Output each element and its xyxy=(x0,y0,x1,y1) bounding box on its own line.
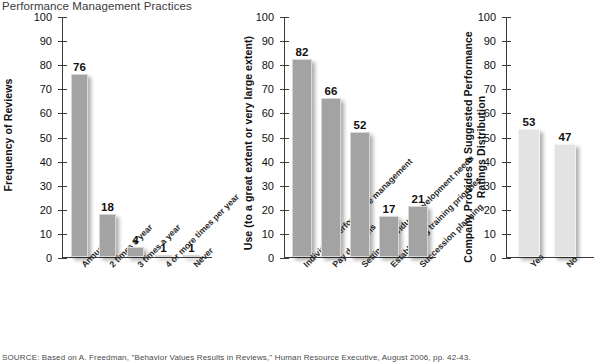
y-axis-tick-label: 50 xyxy=(484,132,496,144)
y-axis-tick: 90 xyxy=(502,41,511,42)
y-axis-tick-label: 40 xyxy=(40,156,52,168)
y-axis-tick: 70 xyxy=(58,89,67,90)
bar: 17 xyxy=(379,216,399,257)
y-axis-title: Frequency of Reviews xyxy=(2,10,18,260)
y-axis-tick: 10 xyxy=(58,234,67,235)
y-axis-tick-label: 100 xyxy=(478,11,496,23)
bar-value-label: 53 xyxy=(523,116,536,128)
y-axis-tick-label: 20 xyxy=(484,204,496,216)
y-axis-tick: 10 xyxy=(280,234,289,235)
y-axis-tick: 50 xyxy=(58,138,67,139)
y-axis-tick: 40 xyxy=(502,162,511,163)
y-axis-tick-label: 10 xyxy=(40,228,52,240)
y-axis-tick-label: 60 xyxy=(40,107,52,119)
bar-value-label: 18 xyxy=(101,201,114,213)
y-axis-tick-label: 60 xyxy=(262,107,274,119)
bar-value-label: 4 xyxy=(132,234,138,246)
y-axis-tick: 30 xyxy=(58,186,67,187)
y-axis-tick: 60 xyxy=(280,113,289,114)
bar-value-label: 82 xyxy=(296,46,309,58)
y-axis-tick: 90 xyxy=(280,41,289,42)
chart-panel-use-extent: Use (to a great extent or very large ext… xyxy=(222,10,444,350)
y-axis-tick: 60 xyxy=(502,113,511,114)
y-axis-tick: 50 xyxy=(502,138,511,139)
y-axis-tick: 100 xyxy=(502,17,511,18)
y-axis-tick-label: 40 xyxy=(262,156,274,168)
y-axis-tick-label: 50 xyxy=(40,132,52,144)
plot-area: 010203040506070809010082Individual perfo… xyxy=(284,17,436,258)
y-axis-tick-label: 70 xyxy=(262,83,274,95)
y-axis-tick-label: 70 xyxy=(40,83,52,95)
y-axis-tick: 80 xyxy=(58,65,67,66)
y-axis-tick: 20 xyxy=(502,210,511,211)
y-axis-tick: 50 xyxy=(280,138,289,139)
y-axis-tick: 100 xyxy=(280,17,289,18)
y-axis-tick-label: 70 xyxy=(484,83,496,95)
bar: 53 xyxy=(518,129,540,257)
y-axis-tick: 0 xyxy=(280,258,289,259)
y-axis-tick-label: 80 xyxy=(40,59,52,71)
y-axis-tick: 0 xyxy=(502,258,511,259)
y-axis-tick-label: 60 xyxy=(484,107,496,119)
plot-area: 010203040506070809010076Annual182 times … xyxy=(62,17,212,258)
source-note: SOURCE: Based on A. Freedman, "Behavior … xyxy=(2,353,471,362)
y-axis-tick-label: 100 xyxy=(34,11,52,23)
y-axis-tick: 40 xyxy=(58,162,67,163)
y-axis-tick-label: 10 xyxy=(262,228,274,240)
y-axis-tick: 30 xyxy=(280,186,289,187)
y-axis-tick-label: 0 xyxy=(268,252,274,264)
plot-area: 010203040506070809010053Yes47No xyxy=(506,17,594,258)
chart-panel-frequency-of-reviews: Frequency of Reviews01020304050607080901… xyxy=(0,10,222,350)
y-axis-tick-label: 90 xyxy=(40,35,52,47)
y-axis-tick: 10 xyxy=(502,234,511,235)
y-axis-tick-label: 90 xyxy=(262,35,274,47)
y-axis-tick: 40 xyxy=(280,162,289,163)
bar-value-label: 76 xyxy=(73,61,86,73)
bar-value-label: 66 xyxy=(325,85,338,97)
bar-value-label: 1 xyxy=(160,242,166,254)
y-axis-tick-label: 50 xyxy=(262,132,274,144)
y-axis-tick-label: 20 xyxy=(40,204,52,216)
y-axis-tick-label: 0 xyxy=(46,252,52,264)
bar: 66 xyxy=(321,98,341,257)
bar: 18 xyxy=(99,214,116,257)
chart-panel-ratings-distribution: Company Provides a Suggested Performance… xyxy=(444,10,603,350)
y-axis-tick-label: 80 xyxy=(262,59,274,71)
y-axis-tick: 70 xyxy=(502,89,511,90)
y-axis-tick-label: 20 xyxy=(262,204,274,216)
y-axis-tick-label: 100 xyxy=(256,11,274,23)
bar: 52 xyxy=(350,132,370,257)
y-axis-tick: 100 xyxy=(58,17,67,18)
y-axis-tick-label: 30 xyxy=(262,180,274,192)
bar-value-label: 17 xyxy=(383,203,396,215)
y-axis-tick: 0 xyxy=(58,258,67,259)
bar-value-label: 47 xyxy=(559,131,572,143)
bar-value-label: 21 xyxy=(412,193,425,205)
bar-value-label: 1 xyxy=(188,242,194,254)
y-axis-tick-label: 10 xyxy=(484,228,496,240)
y-axis-tick: 70 xyxy=(280,89,289,90)
y-axis-tick: 60 xyxy=(58,113,67,114)
y-axis-tick-label: 40 xyxy=(484,156,496,168)
y-axis-tick: 30 xyxy=(502,186,511,187)
bar-value-label: 52 xyxy=(354,119,367,131)
y-axis-tick: 80 xyxy=(502,65,511,66)
y-axis-tick: 80 xyxy=(280,65,289,66)
bar: 82 xyxy=(292,59,312,257)
bar: 76 xyxy=(71,74,88,257)
y-axis-tick-label: 80 xyxy=(484,59,496,71)
y-axis-tick-label: 30 xyxy=(484,180,496,192)
bar: 21 xyxy=(408,206,428,257)
bar: 47 xyxy=(554,144,576,257)
y-axis-tick: 90 xyxy=(58,41,67,42)
y-axis-tick: 20 xyxy=(58,210,67,211)
y-axis-tick: 20 xyxy=(280,210,289,211)
y-axis-tick-label: 0 xyxy=(490,252,496,264)
y-axis-tick-label: 90 xyxy=(484,35,496,47)
y-axis-tick-label: 30 xyxy=(40,180,52,192)
